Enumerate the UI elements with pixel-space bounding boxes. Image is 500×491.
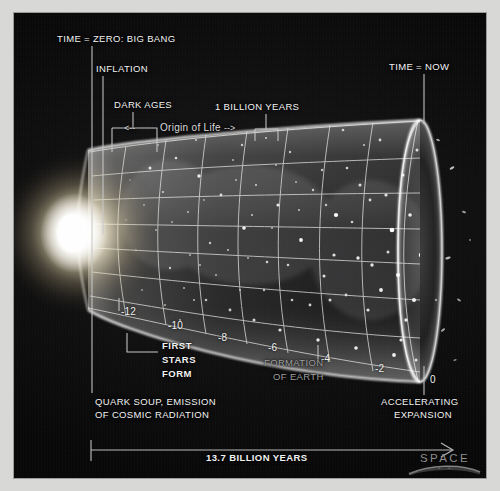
logo-dots: • • • — [428, 465, 454, 471]
origin-of-life-left-arrow: <-- — [124, 123, 135, 135]
label-quark-soup-line2: OF COSMIC RADIATION — [95, 409, 209, 421]
tick-label-minus-10: -10 — [168, 320, 183, 331]
tick-label-minus-8: -8 — [218, 332, 227, 343]
universe-timeline-figure: TIME = ZERO: BIG BANG INFLATION DARK AGE… — [0, 0, 500, 491]
label-big-bang: TIME = ZERO: BIG BANG — [57, 33, 175, 45]
label-time-now: TIME = NOW — [389, 61, 449, 73]
space-com-logo: SPACE • • • — [413, 452, 477, 478]
label-total-span: 13.7 BILLION YEARS — [206, 452, 308, 464]
label-first-stars-line3: FORM — [162, 368, 192, 380]
leader-first-stars — [127, 333, 158, 352]
label-accelerating-line1: ACCELERATING — [381, 396, 458, 408]
tick-label-minus-6: -6 — [268, 342, 277, 353]
tick-label-minus-12: -12 — [121, 306, 136, 317]
label-dark-ages: DARK AGES — [114, 99, 172, 111]
origin-of-life-right-arrow: --> — [224, 123, 235, 135]
label-quark-soup-line1: QUARK SOUP, EMISSION — [95, 396, 216, 408]
label-one-billion-years: 1 BILLION YEARS — [215, 101, 299, 113]
label-first-stars-line2: STARS — [162, 354, 196, 366]
logo-wordmark: SPACE — [420, 452, 470, 464]
label-accelerating-line2: EXPANSION — [394, 409, 452, 421]
label-first-stars-line1: FIRST — [162, 340, 192, 352]
label-inflation: INFLATION — [96, 63, 148, 75]
label-formation-earth-line1: FORMATION — [264, 357, 323, 369]
bracket-one-billion — [255, 129, 278, 141]
label-origin-of-life: Origin of Life — [160, 122, 221, 134]
label-formation-earth-line2: OF EARTH — [273, 371, 324, 383]
tick-label-zero: 0 — [430, 374, 436, 385]
tick-label-minus-2: -2 — [375, 363, 384, 374]
